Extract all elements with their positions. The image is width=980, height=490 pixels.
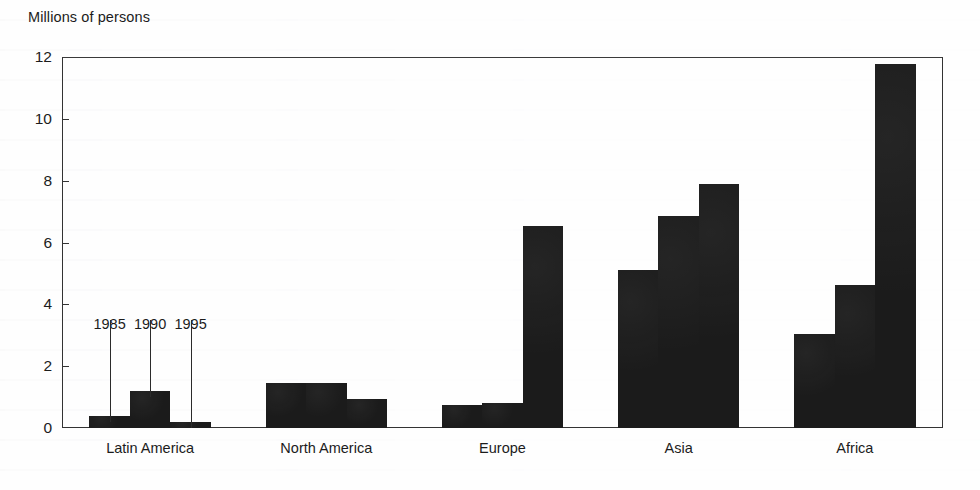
bar-north-america-1995 [347,399,388,428]
bar-asia-1990 [658,216,699,428]
y-tick-label-8: 8 [43,172,52,190]
bar-north-america-1990 [306,383,347,428]
category-label-asia: Asia [665,440,693,456]
year-annotation-leader-line-1985 [110,320,111,422]
y-tick-mark-6 [62,243,69,244]
bars-layer [62,57,943,428]
y-tick-label-4: 4 [43,295,52,313]
y-tick-mark-2 [62,366,69,367]
bar-europe-1995 [523,226,564,429]
category-label-north-america: North America [280,440,372,456]
category-label-europe: Europe [479,440,526,456]
year-annotation-leader-line-1995 [191,320,192,428]
bar-africa-1985 [794,334,835,428]
bar-asia-1995 [699,184,740,428]
chart-figure: Millions of persons 024681012 1985199019… [0,0,980,490]
bar-africa-1995 [875,64,916,428]
category-label-africa: Africa [836,440,873,456]
y-tick-label-10: 10 [35,110,52,128]
bar-asia-1985 [618,270,659,428]
y-tick-mark-4 [62,304,69,305]
bar-africa-1990 [835,285,876,428]
y-tick-mark-8 [62,181,69,182]
y-tick-mark-10 [62,119,69,120]
bar-north-america-1985 [266,383,307,428]
bar-europe-1990 [482,403,523,428]
y-tick-label-2: 2 [43,357,52,375]
category-label-latin-america: Latin America [106,440,194,456]
bar-europe-1985 [442,405,483,428]
y-tick-label-0: 0 [43,419,52,437]
y-tick-label-6: 6 [43,234,52,252]
y-tick-label-12: 12 [35,48,52,66]
year-annotation-leader-line-1990 [150,320,151,397]
y-axis-tick-labels: 024681012 [18,0,52,490]
